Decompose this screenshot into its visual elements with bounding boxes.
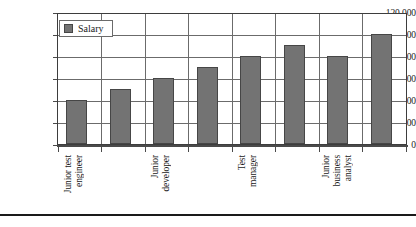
x-axis-tick-mark (58, 147, 59, 152)
x-axis-tick-mark (145, 147, 146, 152)
bottom-divider (0, 214, 416, 216)
category-separator (319, 14, 320, 144)
category-separator (362, 14, 363, 144)
bar-8[interactable] (371, 34, 392, 144)
legend-label-salary: Salary (78, 23, 104, 34)
x-axis-label-line: analyst (343, 155, 354, 181)
x-axis-tick-mark (362, 147, 363, 152)
x-axis-tick-mark (101, 147, 102, 152)
bar-junior-test-engineer[interactable] (66, 100, 87, 144)
legend-swatch-salary (64, 24, 73, 33)
category-separator (232, 14, 233, 144)
x-axis-tick-mark (232, 147, 233, 152)
x-axis-label-test-manager: Test manager (235, 155, 261, 205)
category-separator (275, 14, 276, 144)
x-axis-tick-mark (275, 147, 276, 152)
bar-6[interactable] (284, 45, 305, 144)
x-axis-label-line: engineer (74, 155, 85, 187)
x-axis-label-line: business (332, 155, 343, 186)
x-axis-tick-mark (188, 147, 189, 152)
bar-junior-business-analyst[interactable] (327, 56, 348, 144)
salary-bar-chart-figure: 120,000 100,000 80,000 60,000 40,000 20,… (0, 0, 416, 227)
x-axis-label-line: Junior (321, 155, 332, 178)
bar-2[interactable] (110, 89, 131, 144)
bar-4[interactable] (197, 67, 218, 144)
x-axis-tick-mark (406, 147, 407, 152)
category-separator (145, 14, 146, 144)
x-axis-label-line: Junior (150, 155, 161, 178)
x-axis-label-line: manager (248, 155, 259, 187)
bar-junior-developer[interactable] (153, 78, 174, 144)
x-axis-label-line: Junior test (63, 155, 74, 193)
x-axis-label-junior-test-engineer: Junior test engineer (61, 155, 87, 205)
x-axis-tick-mark (319, 147, 320, 152)
x-axis-label-junior-business-analyst: Junior business analyst (318, 155, 356, 205)
bar-test-manager[interactable] (240, 56, 261, 144)
legend[interactable]: Salary (59, 20, 113, 37)
x-axis-label-junior-developer: Junior developer (148, 155, 174, 205)
x-axis-label-line: Test (237, 155, 248, 170)
x-axis-label-line: developer (161, 155, 172, 192)
category-separator (188, 14, 189, 144)
